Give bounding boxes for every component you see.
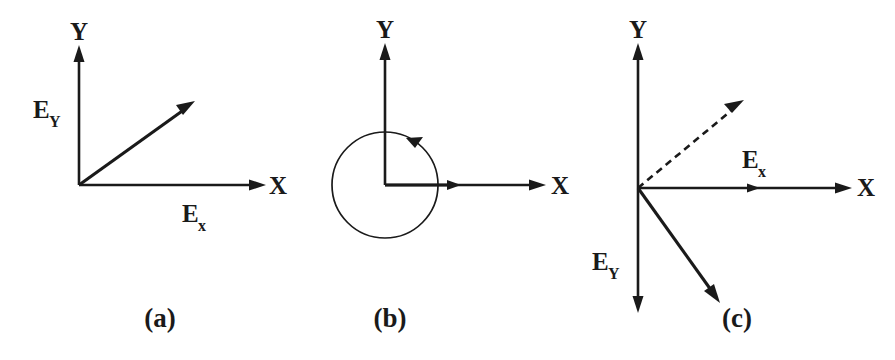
panel-c-ey-base: E <box>592 248 609 275</box>
panel-c-ey-label: E Y <box>592 248 620 282</box>
panel-c-ey-subscript: Y <box>608 265 620 282</box>
panel-c-solid-resultant-vector <box>638 188 720 303</box>
panel-a-resultant-vector <box>79 101 195 185</box>
panel-c-dashed-resultant-vector <box>638 100 744 188</box>
panel-a-ex-base: E <box>182 200 199 227</box>
panel-a-y-axis-label: Y <box>70 18 88 45</box>
panel-a: Y X E Y E x (a) <box>33 18 287 333</box>
panel-a-ey-label: E Y <box>33 96 61 130</box>
panel-c-ex-subscript: x <box>758 163 766 180</box>
panel-b-x-axis-label: X <box>551 172 569 199</box>
panel-c-ex-base: E <box>742 146 759 173</box>
panel-c-y-axis-label: Y <box>629 16 647 43</box>
panel-c-x-axis-label: X <box>857 174 875 201</box>
panel-c-caption: (c) <box>722 303 752 333</box>
panel-b-y-axis-label: Y <box>376 16 394 43</box>
panel-a-caption: (a) <box>144 303 175 333</box>
panel-b-caption: (b) <box>374 303 407 333</box>
panel-a-ey-subscript: Y <box>49 113 61 130</box>
panel-c-y-axis <box>633 43 644 313</box>
polarization-states-figure: Y X E Y E x (a) <box>0 0 895 360</box>
panel-a-x-axis-label: X <box>269 172 287 199</box>
panel-a-x-axis <box>79 180 266 191</box>
panel-a-ex-label: E x <box>182 200 206 234</box>
figure-canvas: Y X E Y E x (a) <box>0 0 895 360</box>
panel-c-ex-component-arrowhead <box>747 184 760 193</box>
panel-b: Y X (b) <box>332 16 569 333</box>
panel-a-ex-subscript: x <box>198 217 206 234</box>
panel-c-ex-label: E x <box>742 146 766 180</box>
panel-a-y-axis <box>74 45 85 185</box>
panel-b-y-axis <box>380 43 391 185</box>
panel-a-ey-base: E <box>33 96 50 123</box>
panel-b-field-vector <box>385 180 461 190</box>
panel-c: Y X E x E Y (c) <box>592 16 875 333</box>
panel-c-x-axis <box>638 183 852 194</box>
